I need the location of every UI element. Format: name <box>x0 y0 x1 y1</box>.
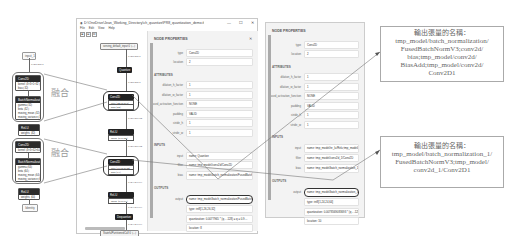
connector-lines <box>0 0 515 236</box>
